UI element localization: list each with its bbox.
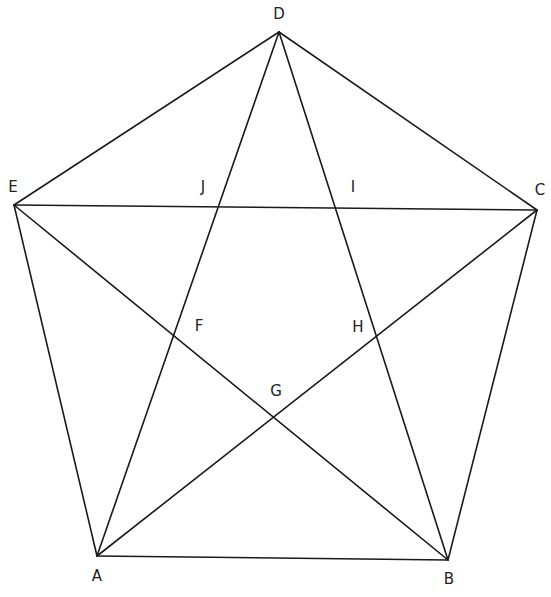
label-d: D: [273, 5, 285, 23]
label-i: I: [351, 178, 355, 196]
segment-ac: [97, 210, 537, 556]
segment-bd: [279, 32, 448, 560]
segment-cd: [279, 32, 537, 210]
label-f: F: [195, 317, 204, 335]
label-g: G: [270, 382, 282, 400]
segment-ad: [97, 32, 279, 556]
diagram-labels: A B C D E F G H I J: [8, 5, 545, 588]
label-h: H: [352, 318, 363, 336]
label-b: B: [444, 570, 454, 588]
segment-de: [14, 32, 279, 205]
segment-bc: [448, 210, 537, 560]
segment-ea: [14, 205, 97, 556]
diagram-segments: [14, 32, 537, 560]
pentagram-diagram: A B C D E F G H I J: [0, 0, 551, 597]
label-c: C: [535, 181, 545, 199]
segment-be: [14, 205, 448, 560]
segment-ce: [14, 205, 537, 210]
segment-ab: [97, 556, 448, 560]
label-a: A: [92, 567, 103, 585]
label-j: J: [200, 178, 205, 196]
label-e: E: [8, 178, 17, 196]
